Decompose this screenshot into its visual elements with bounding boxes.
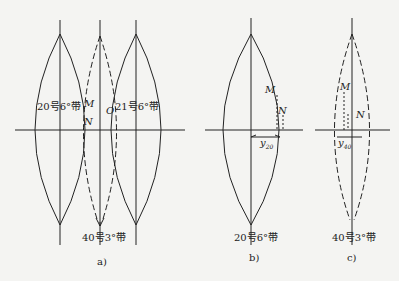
zone-21-label: 21号6°带 [115,102,159,112]
caption-a: a) [97,257,107,267]
y20-label: y20 [260,138,273,150]
zone-40-bottom-label: 40号3°带 [332,233,376,243]
point-m-label-c: M [340,82,350,92]
point-m-label: M [84,99,94,109]
caption-c: c) [347,253,357,263]
point-n-label: N [84,117,93,127]
zone-20-label: 20号6°带 [37,102,81,112]
caption-b: b) [249,253,259,263]
zone-40-label: 40号3°带 [82,233,126,243]
point-m-label-b: M [265,85,275,95]
point-n-label-c: N [356,110,365,120]
point-o-label: O [106,106,114,116]
point-n-label-b: N [278,106,287,116]
zone-20-bottom-label: 20号6°带 [234,233,278,243]
y40-label: y40 [338,138,351,150]
